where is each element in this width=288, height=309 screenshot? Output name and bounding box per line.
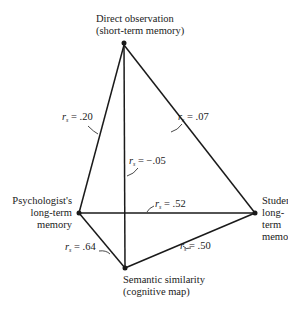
pointer-arrow-left-bottom — [99, 251, 110, 254]
corr-label-top-left: rs = .20 — [62, 111, 93, 126]
node-dot-top — [122, 41, 127, 46]
corr-value-top-left: = .20 — [68, 111, 92, 122]
node-top-line1: Direct observation — [96, 13, 184, 25]
node-right-line2: long-term — [262, 207, 288, 231]
edge-top-left — [79, 45, 124, 213]
pointer-arrow-left-right — [147, 206, 154, 212]
node-bottom-line1: Semantic similarity — [123, 274, 205, 286]
node-bottom-line2: (cognitive map) — [123, 286, 205, 298]
corr-label-right-bottom: rs = .50 — [180, 240, 211, 255]
node-label-top: Direct observation (short-term memory) — [96, 13, 184, 37]
node-right-line3: memory — [262, 231, 288, 243]
corr-label-left-right: rs = .52 — [155, 198, 186, 213]
node-label-right: Students' long-term memory — [262, 195, 288, 243]
corr-value-top-bottom: = −.05 — [135, 155, 165, 166]
node-left-line3: memory — [12, 219, 72, 231]
node-dot-left — [77, 211, 82, 216]
node-label-left: Psychologist's long-term memory — [12, 195, 72, 231]
corr-value-right-bottom: = .50 — [186, 240, 210, 251]
node-left-line1: Psychologist's — [12, 195, 72, 207]
edge-top-bottom — [124, 45, 125, 268]
corr-value-top-right: = .07 — [184, 111, 208, 122]
node-dot-bottom — [123, 266, 128, 271]
corr-value-left-right: = .52 — [161, 198, 185, 209]
node-right-line1: Students' — [262, 195, 288, 207]
corr-value-left-bottom: = .64 — [71, 241, 95, 252]
node-top-line2: (short-term memory) — [96, 25, 184, 37]
corr-label-top-right: rs = .07 — [178, 111, 209, 126]
node-left-line2: long-term — [12, 207, 72, 219]
corr-label-left-bottom: rs = .64 — [65, 241, 96, 256]
pointer-arrow-top-left — [88, 126, 98, 134]
node-dot-right — [253, 211, 258, 216]
corr-label-top-bottom: rs = −.05 — [129, 155, 166, 170]
node-label-bottom: Semantic similarity (cognitive map) — [123, 274, 205, 298]
edge-top-right — [124, 45, 255, 213]
